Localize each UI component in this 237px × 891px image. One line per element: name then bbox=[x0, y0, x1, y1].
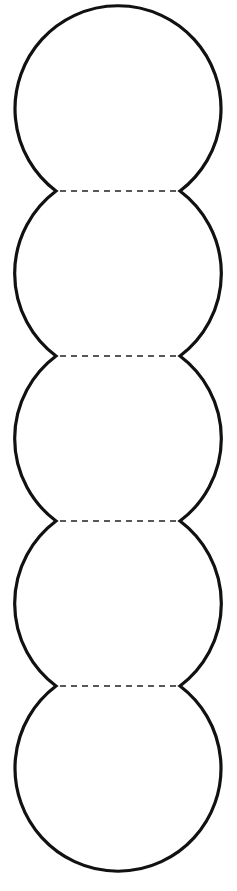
circle-chain-diagram bbox=[0, 0, 237, 891]
circle-chain-outline bbox=[15, 6, 222, 871]
